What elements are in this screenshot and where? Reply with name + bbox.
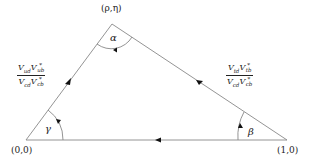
angle-label-beta: β: [248, 126, 254, 137]
arrow-gamma-arc-icon: [56, 119, 61, 124]
side-right-numerator: VtdV*tb: [226, 63, 253, 76]
angle-label-alpha: α: [110, 32, 117, 43]
vertex-label-unit: (1,0): [277, 145, 298, 155]
side-right-denominator: VcdV*cb: [226, 76, 253, 88]
arrow-bottom-side-icon: [155, 138, 161, 143]
side-label-right: VtdV*tb VcdV*cb: [226, 63, 253, 87]
side-left-numerator: VudV*ub: [17, 63, 45, 76]
unitarity-triangle-diagram: [0, 0, 313, 165]
arrow-left-side-icon: [65, 78, 71, 85]
side-left-denominator: VcdV*cb: [17, 76, 45, 88]
angle-label-gamma: γ: [45, 123, 51, 134]
side-label-left: VudV*ub VcdV*cb: [17, 63, 45, 87]
vertex-label-apex: (ρ,η): [101, 3, 122, 13]
vertex-label-origin: (0,0): [11, 145, 32, 155]
arrow-right-side-icon: [196, 80, 203, 85]
